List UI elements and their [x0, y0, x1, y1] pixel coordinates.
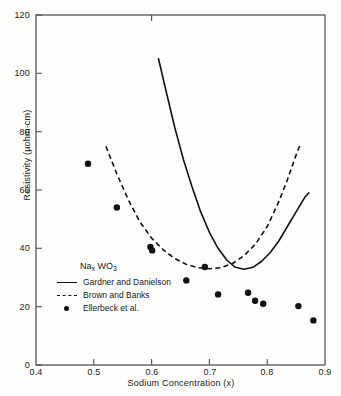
x-tick-label-0-5: 0.5: [79, 367, 109, 377]
y-axis-title: Resistivity (µohm-cm): [22, 95, 32, 215]
x-axis-title: Sodium Concentration (x): [36, 378, 326, 388]
data-point: [245, 290, 251, 296]
data-point: [85, 161, 91, 167]
dot-marker-key-icon: [56, 303, 78, 315]
legend: Nax WO3 Gardner and Danielson Brown and …: [56, 262, 171, 315]
x-tick-label-0-8: 0.8: [252, 367, 282, 377]
data-point: [202, 264, 208, 270]
y-tick-label-120: 120: [4, 10, 30, 20]
y-tick-label-20: 20: [4, 302, 30, 312]
data-point: [295, 303, 301, 309]
y-axis-ticks: [36, 15, 42, 365]
legend-label-brown-banks: Brown and Banks: [83, 291, 150, 300]
legend-title: Nax WO3: [80, 262, 171, 272]
data-point: [149, 247, 155, 253]
resistivity-vs-sodium-concentration-chart: [0, 0, 341, 396]
legend-item-ellerbeck: Ellerbeck et al.: [56, 302, 171, 315]
data-point: [114, 204, 120, 210]
legend-item-gardner-danielson: Gardner and Danielson: [56, 276, 171, 289]
data-point: [310, 317, 316, 323]
x-tick-label-0-9: 0.9: [310, 367, 340, 377]
figure-container: 0 20 40 60 80 100 120 0.4 0.5 0.6 0.7 0.…: [0, 0, 341, 396]
data-point: [215, 291, 221, 297]
legend-title-na: Na: [80, 261, 92, 271]
legend-title-wo: WO: [95, 261, 113, 271]
data-point: [260, 301, 266, 307]
dashed-line-key-icon: [56, 290, 78, 302]
series-gardner-danielson-line: [159, 59, 309, 269]
legend-label-gardner-danielson: Gardner and Danielson: [83, 278, 171, 287]
x-tick-label-0-4: 0.4: [21, 367, 51, 377]
legend-label-ellerbeck: Ellerbeck et al.: [83, 304, 139, 313]
x-tick-label-0-7: 0.7: [195, 367, 225, 377]
y-tick-label-100: 100: [4, 68, 30, 78]
data-point: [252, 298, 258, 304]
solid-line-key-icon: [56, 277, 78, 289]
legend-item-brown-banks: Brown and Banks: [56, 289, 171, 302]
data-point: [183, 277, 189, 283]
y-tick-label-40: 40: [4, 243, 30, 253]
x-tick-label-0-6: 0.6: [137, 367, 167, 377]
legend-title-subscript-3: 3: [113, 265, 117, 272]
